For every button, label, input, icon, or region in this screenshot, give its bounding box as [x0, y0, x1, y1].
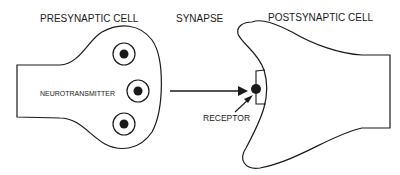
receptor-label: RECEPTOR: [203, 113, 250, 123]
vesicle: [113, 43, 135, 65]
postsynaptic-cell: [238, 21, 390, 169]
receptor-pointer-arrow: [235, 95, 253, 112]
release-arrow: [170, 86, 248, 96]
bound-neurotransmitter: [251, 84, 261, 94]
vesicle: [113, 113, 135, 135]
presynaptic-label: PRESYNAPTIC CELL: [40, 13, 139, 24]
neurotransmitter-label: NEUROTRANSMITTER: [40, 90, 115, 97]
synapse-label: SYNAPSE: [176, 13, 224, 24]
vesicle: [127, 80, 149, 102]
postsynaptic-label: POSTSYNAPTIC CELL: [268, 12, 373, 23]
synapse-diagram: PRESYNAPTIC CELL SYNAPSE POSTSYNAPTIC CE…: [0, 0, 400, 175]
